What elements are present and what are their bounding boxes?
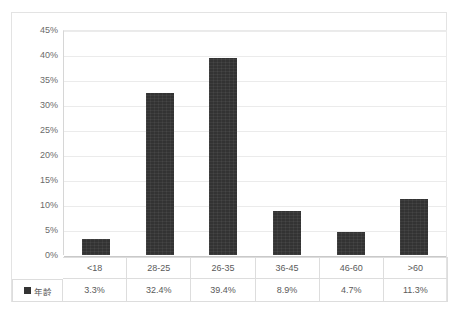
bar[interactable]	[82, 239, 110, 256]
bar[interactable]	[400, 199, 428, 256]
bar[interactable]	[273, 211, 301, 256]
category-cell: <18	[63, 257, 127, 279]
y-axis-tick-label: 45%	[40, 26, 58, 35]
value-cell: 3.3%	[63, 279, 127, 302]
category-cell: >60	[384, 257, 448, 279]
bar-series	[64, 31, 446, 255]
value-cell: 8.9%	[256, 279, 320, 302]
chart-frame: 45%40%35%30%25%20%15%10%5%0% <1828-2526-…	[11, 12, 447, 302]
bar-slot	[319, 31, 383, 255]
data-table: <1828-2526-3536-4546-60>60 年龄 3.3%32.4%3…	[12, 257, 448, 302]
y-axis-tick-label: 25%	[40, 126, 58, 135]
y-axis-tick-label: 40%	[40, 51, 58, 60]
y-axis-tick-label: 30%	[40, 101, 58, 110]
category-cell: 36-45	[256, 257, 320, 279]
y-axis: 45%40%35%30%25%20%15%10%5%0%	[12, 13, 64, 257]
legend-entry: 年龄	[12, 279, 63, 302]
y-axis-tick-label: 10%	[40, 201, 58, 210]
bar[interactable]	[337, 232, 365, 256]
table-corner-cell	[12, 257, 63, 279]
value-cell: 4.7%	[320, 279, 384, 302]
value-cell: 11.3%	[384, 279, 448, 302]
y-axis-tick-label: 15%	[40, 176, 58, 185]
bar-slot	[255, 31, 319, 255]
bar[interactable]	[146, 93, 174, 255]
table-row-categories: <1828-2526-3536-4546-60>60	[12, 257, 448, 279]
y-axis-tick-label: 35%	[40, 76, 58, 85]
bar-slot	[382, 31, 446, 255]
y-axis-tick-label: 5%	[45, 226, 58, 235]
bar[interactable]	[209, 58, 237, 255]
value-cell: 39.4%	[191, 279, 255, 302]
clipped-title-text	[96, 0, 154, 3]
category-cell: 46-60	[320, 257, 384, 279]
chart-screenshot: 45%40%35%30%25%20%15%10%5%0% <1828-2526-…	[0, 0, 458, 318]
table-row-values: 年龄 3.3%32.4%39.4%8.9%4.7%11.3%	[12, 279, 448, 302]
category-cell: 26-35	[191, 257, 255, 279]
bar-slot	[191, 31, 255, 255]
legend-series-label: 年龄	[34, 285, 52, 297]
plot-wrapper: 45%40%35%30%25%20%15%10%5%0%	[12, 13, 448, 257]
bar-slot	[64, 31, 128, 255]
value-cell: 32.4%	[127, 279, 191, 302]
bar-slot	[128, 31, 192, 255]
plot-area	[63, 30, 447, 255]
category-cell: 28-25	[127, 257, 191, 279]
clipped-title-strip	[0, 0, 458, 5]
legend-swatch-icon	[24, 287, 31, 294]
y-axis-tick-label: 20%	[40, 151, 58, 160]
